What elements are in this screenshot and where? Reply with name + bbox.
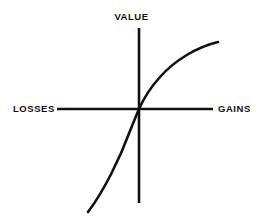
prospect-theory-figure: VALUE LOSSES GAINS — [0, 0, 265, 223]
axis-label-gains: GAINS — [218, 104, 251, 114]
value-function-curve — [88, 42, 218, 212]
axis-label-value: VALUE — [0, 12, 264, 22]
axis-label-losses: LOSSES — [13, 104, 55, 114]
